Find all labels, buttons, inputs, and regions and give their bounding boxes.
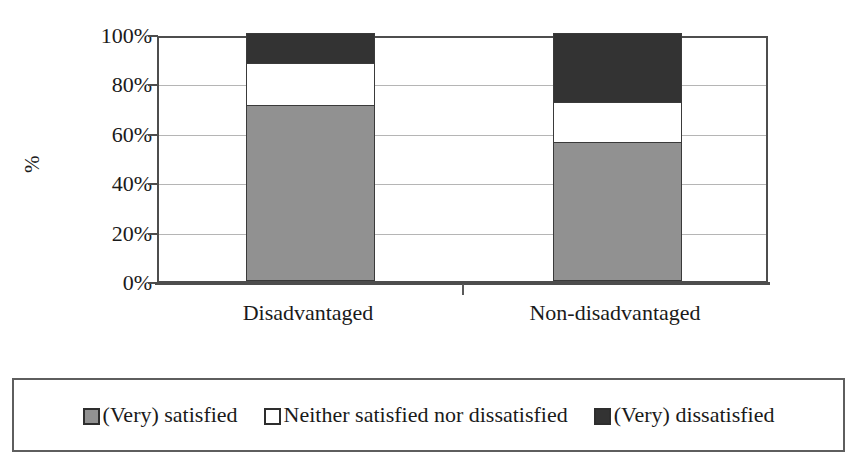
x-axis-category-divider-tick [462,284,464,295]
bar-segment[interactable] [553,141,682,281]
y-tick-mark [148,183,158,185]
legend-label: (Very) satisfied [103,403,238,427]
bar-segment[interactable] [246,62,375,105]
y-tick-label: 100% [66,25,152,47]
y-tick-mark [148,233,158,235]
bar-segment[interactable] [246,104,375,281]
chart-legend: (Very) satisfiedNeither satisfied nor di… [12,378,845,452]
y-tick-label: 0% [66,272,152,294]
legend-item[interactable]: (Very) satisfied [83,403,238,427]
legend-item[interactable]: (Very) dissatisfied [594,403,775,427]
y-tick-label: 60% [66,124,152,146]
y-axis-title: % [10,142,54,186]
stacked-bar[interactable] [553,34,682,281]
y-tick-mark [148,84,158,86]
x-category-label: Non-disadvantaged [465,300,765,326]
legend-item[interactable]: Neither satisfied nor dissatisfied [264,403,568,427]
legend-label: (Very) dissatisfied [614,403,775,427]
legend-label: Neither satisfied nor dissatisfied [284,403,568,427]
y-tick-label: 20% [66,223,152,245]
bar-segment[interactable] [553,102,682,143]
y-tick-label: 40% [66,173,152,195]
stacked-bar-chart: % 100%80%60%40%20%0% DisadvantagedNon-di… [0,0,863,466]
x-category-label: Disadvantaged [158,300,458,326]
legend-swatch-icon [264,408,281,425]
legend-swatch-icon [83,408,100,425]
legend-items-row: (Very) satisfiedNeither satisfied nor di… [14,380,843,450]
y-tick-label: 80% [66,74,152,96]
y-tick-mark [148,134,158,136]
legend-swatch-icon [594,408,611,425]
y-tick-mark [148,35,158,37]
bar-segment[interactable] [553,33,682,104]
bar-segment[interactable] [246,33,375,64]
bar-group[interactable] [553,34,682,281]
plot-area [157,36,768,283]
y-tick-mark [148,282,158,284]
stacked-bar[interactable] [246,34,375,281]
bar-group[interactable] [246,34,375,281]
